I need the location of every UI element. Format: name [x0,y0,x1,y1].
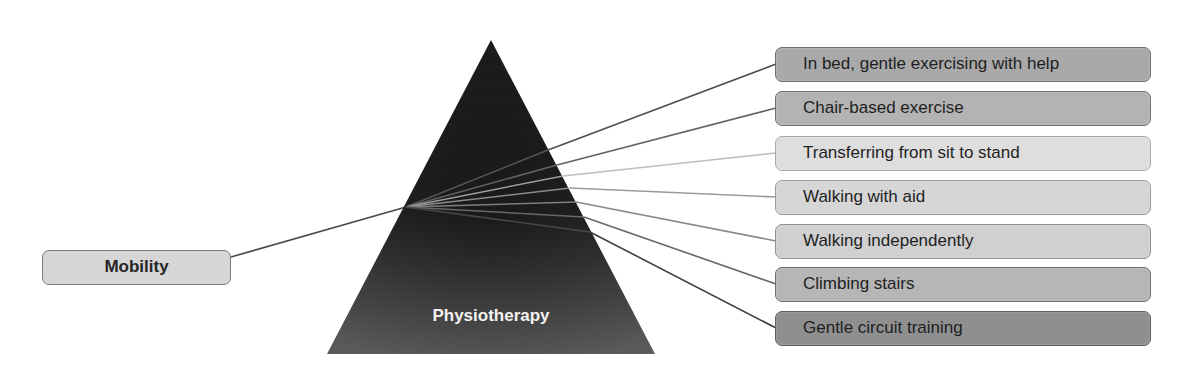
input-line [231,207,406,257]
output-box-walking-independently: Walking independently [775,224,1151,259]
ray-4 [570,188,776,197]
ray-5 [576,202,776,241]
output-box-walking-aid: Walking with aid [775,180,1151,215]
mobility-box: Mobility [42,250,231,285]
physiotherapy-prism-diagram: Mobility Physiotherapy In bed, gentle ex… [0,0,1195,369]
output-box-climbing-stairs: Climbing stairs [775,267,1151,302]
prism-label: Physiotherapy [391,306,591,326]
output-box-in-bed: In bed, gentle exercising with help [775,47,1151,82]
output-box-chair-based: Chair-based exercise [775,91,1151,126]
output-box-transferring: Transferring from sit to stand [775,136,1151,171]
ray-3 [563,153,776,176]
output-box-circuit-training: Gentle circuit training [775,311,1151,346]
